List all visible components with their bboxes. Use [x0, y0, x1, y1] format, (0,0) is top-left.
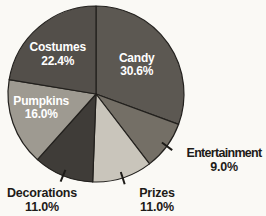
slice-label-costumes: Costumes [29, 40, 86, 54]
slice-pct-prizes: 11.0% [140, 200, 174, 214]
slice-pct-decorations: 11.0% [25, 200, 59, 214]
slice-label-entertainment: Entertainment [187, 146, 263, 160]
pie-chart: Candy30.6%Entertainment9.0%Prizes11.0%De… [0, 0, 266, 216]
slice-pct-entertainment: 9.0% [210, 160, 238, 174]
slice-label-candy: Candy [119, 51, 155, 65]
slice-pct-candy: 30.6% [120, 64, 154, 78]
slice-pct-costumes: 22.4% [41, 54, 75, 68]
pie-chart-figure: Candy30.6%Entertainment9.0%Prizes11.0%De… [0, 0, 266, 216]
slice-pct-pumpkins: 16.0% [25, 107, 59, 121]
slice-label-pumpkins: Pumpkins [13, 94, 69, 108]
slice-label-decorations: Decorations [7, 186, 77, 200]
slice-label-prizes: Prizes [139, 186, 175, 200]
